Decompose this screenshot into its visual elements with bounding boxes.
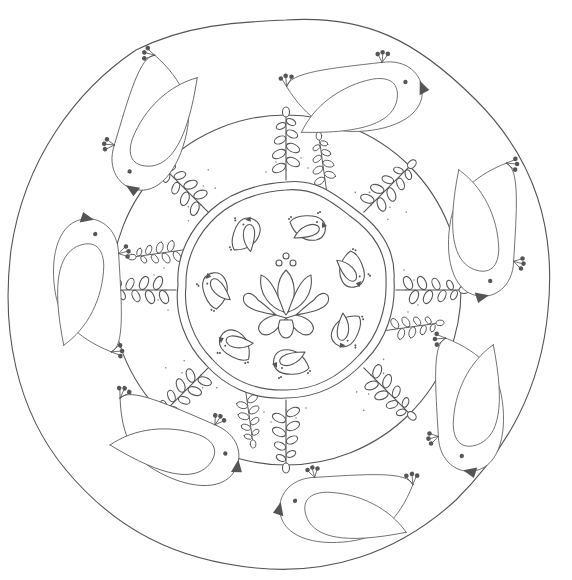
mandala-artwork	[0, 0, 572, 580]
mandala-group	[8, 19, 550, 569]
